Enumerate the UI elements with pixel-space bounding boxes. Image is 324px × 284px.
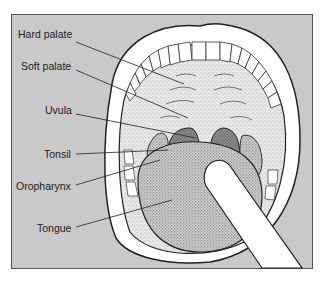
label-soft-palate: Soft palate [21,60,71,72]
label-oropharynx: Oropharynx [16,180,71,192]
mouth-illustration [0,0,324,284]
label-uvula: Uvula [45,104,72,116]
label-tongue: Tongue [37,222,71,234]
label-tonsil: Tonsil [44,148,71,160]
label-hard-palate: Hard palate [18,28,72,40]
